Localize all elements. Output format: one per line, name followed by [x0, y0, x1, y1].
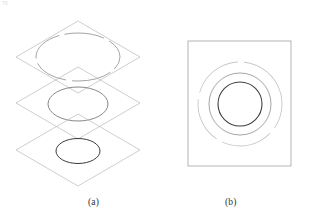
plane-top	[16, 21, 140, 93]
circle-outer	[183, 47, 297, 161]
panel-a-middle-layer	[16, 67, 140, 139]
panel-b-frame	[188, 41, 291, 166]
ellipse-bottom	[56, 139, 100, 164]
panel-a-top-layer	[16, 21, 140, 93]
figure-root: (a) (b) 70	[0, 0, 323, 220]
panel-a-bottom-layer	[16, 114, 140, 186]
plane-middle	[16, 67, 140, 139]
ellipse-top-dashed	[36, 33, 120, 81]
panel-b-group	[183, 41, 297, 166]
figure-canvas	[0, 0, 323, 220]
panel-a-group	[16, 21, 140, 186]
panel-b-caption: (b)	[225, 198, 237, 208]
page-corner-mark-left: 70	[2, 1, 8, 6]
circle-inner	[218, 82, 262, 126]
panel-a-caption: (a)	[88, 198, 99, 208]
plane-bottom	[16, 114, 140, 186]
ellipse-middle	[48, 87, 108, 121]
